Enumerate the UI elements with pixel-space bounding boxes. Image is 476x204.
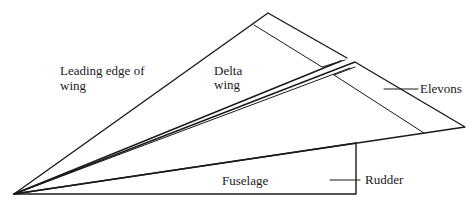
lower-elevon-hinge <box>334 75 424 133</box>
delta-wing-diagram: Leading edge of wing Delta wing Elevons … <box>0 0 476 204</box>
rudder-label: Rudder <box>365 172 404 187</box>
upper-wing-leading-edge <box>14 13 347 194</box>
fuselage-top-edge <box>14 143 356 194</box>
fuselage <box>14 143 356 194</box>
leading-edge-label-line1: Leading edge of <box>60 63 145 78</box>
delta-wing-label-line1: Delta <box>214 63 242 78</box>
leading-edge-label-line2: wing <box>60 78 87 93</box>
upper-wing <box>14 13 347 194</box>
fuselage-label: Fuselage <box>222 173 268 188</box>
elevons-label: Elevons <box>420 81 462 96</box>
delta-wing-label-line2: wing <box>214 77 241 92</box>
